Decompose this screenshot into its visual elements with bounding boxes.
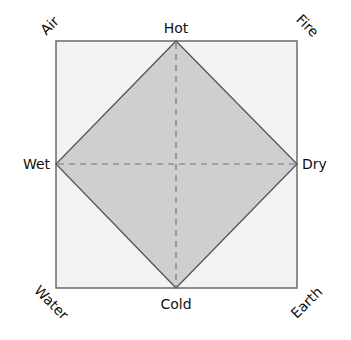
label-fire: Fire bbox=[293, 11, 322, 40]
label-cold: Cold bbox=[160, 296, 191, 312]
label-air: Air bbox=[37, 13, 62, 38]
label-hot: Hot bbox=[164, 20, 189, 36]
label-earth: Earth bbox=[288, 284, 326, 322]
elements-diagram: Hot Cold Wet Dry Air Fire Water Earth bbox=[0, 0, 351, 340]
label-wet: Wet bbox=[23, 156, 51, 172]
label-dry: Dry bbox=[302, 156, 327, 172]
